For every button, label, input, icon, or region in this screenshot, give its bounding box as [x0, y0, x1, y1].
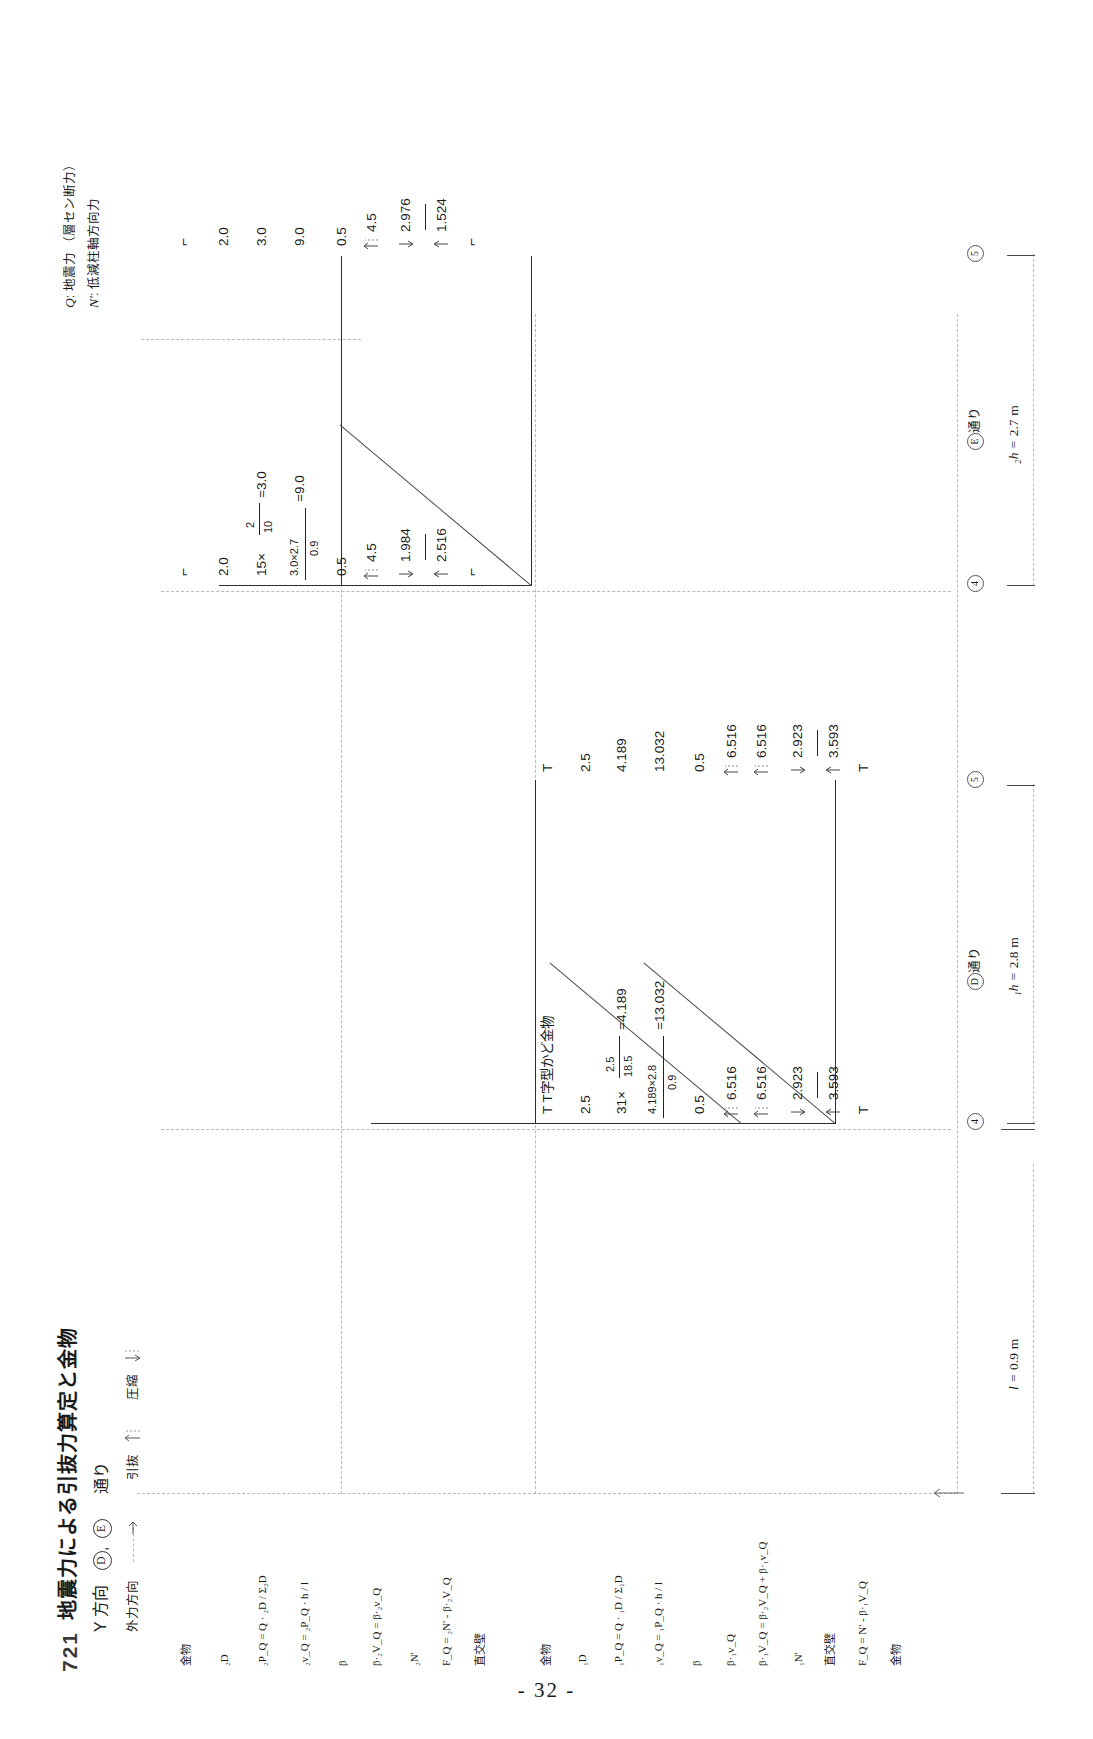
lower-vq-bar — [663, 1036, 664, 1118]
direction-label: Y 方向 — [93, 1585, 109, 1632]
compression-arrow-icon — [123, 1348, 141, 1362]
lower-hw-bottom: T — [857, 1106, 871, 1114]
dim-l-tick-right — [1001, 1129, 1035, 1130]
lower-pq-result: =4.189 — [615, 988, 629, 1030]
upper-r-n-prime: 2.976 — [399, 198, 413, 232]
section-number: 721 — [59, 1631, 80, 1672]
lower-sum-bar — [817, 1072, 818, 1098]
dim-l-label: l = 0.9 m — [1007, 1339, 1021, 1390]
lower-vq-den: 0.9 — [667, 1075, 678, 1090]
upper-r-arrow-2 — [397, 238, 413, 248]
row-label-5: β·₂V_Q = β·₂v_Q — [371, 1588, 382, 1666]
upper-D: 2.0 — [217, 557, 231, 576]
rotated-sheet: 721 地震力による引抜力算定と金物 Y 方向 D, E 通り 外力方向 引抜 … — [41, 50, 1051, 1690]
lower-vq-result: =13.032 — [653, 981, 667, 1030]
lower-beta-v1: 6.516 — [725, 1066, 739, 1100]
upper-r-arrow-1 — [363, 236, 379, 250]
lower-grid-right: 5 — [967, 771, 984, 788]
upper-r-pq: 3.0 — [255, 227, 269, 246]
lower-f-q: 3.593 — [827, 1066, 841, 1100]
lower-r-beta-v2: 6.516 — [755, 724, 769, 758]
upper-arrow-3 — [433, 568, 449, 578]
dim-l-line — [1033, 1164, 1034, 1494]
row-label-0: 金物 — [181, 1644, 192, 1666]
dim-l-tick-left — [1001, 1493, 1035, 1494]
lower-r-beta: 0.5 — [693, 753, 707, 772]
upper-n-prime: 1.984 — [399, 528, 413, 562]
uplift-arrow-icon — [123, 1428, 141, 1442]
lower-r-f-q: 3.593 — [827, 724, 841, 758]
lower-r-hw-bottom: T — [857, 764, 871, 772]
legend-n: N': 低減柱軸方向力 — [87, 198, 101, 308]
upper-pq-result: =3.0 — [255, 471, 269, 498]
lower-D-value: 2.5 — [579, 1095, 593, 1114]
origin-arrow-icon — [931, 1484, 965, 1502]
axis-suffix: 通り — [94, 1462, 110, 1494]
page-number: - 32 - — [0, 1678, 1093, 1703]
row-label-6: ₂N' — [409, 1652, 420, 1666]
lower-hw-note: T T字型かど金物 — [541, 1016, 555, 1114]
row-label-3: ₂v_Q = ₂P_Q · h / l — [299, 1582, 310, 1666]
upper-grid-right: 5 — [967, 245, 984, 262]
axis-label-d: D, — [93, 1547, 112, 1570]
upper-frame-left — [341, 585, 531, 586]
dim-h2-tick-right — [1007, 255, 1035, 256]
legend-n-symbol: N' — [86, 296, 101, 308]
lower-pq-num: 2.5 — [605, 1057, 616, 1072]
lower-r-arrow-1 — [723, 762, 739, 776]
axis-label-e: E — [93, 1519, 112, 1538]
dim-h2-line — [1033, 254, 1034, 586]
lower-span-label: D通り — [967, 947, 984, 990]
circled-e: E — [93, 1519, 112, 1538]
upper-grid-left: 4 — [967, 575, 984, 592]
lower-r-n-prime: 2.923 — [791, 724, 805, 758]
upper-frame-left-up — [219, 585, 341, 586]
dim-h1-line — [1033, 784, 1034, 1124]
load-direction-label: 外力方向 — [127, 1580, 140, 1632]
upper-pq-num: 2 — [245, 522, 256, 528]
upper-frame-top — [341, 256, 342, 586]
upper-r-hw-top: ⌐ — [177, 238, 191, 246]
lower-n-prime: 2.923 — [791, 1066, 805, 1100]
upper-beta: 0.5 — [335, 557, 349, 576]
row-label-17: 直交壁 — [825, 1633, 836, 1666]
document-page: 721 地震力による引抜力算定と金物 Y 方向 D, E 通り 外力方向 引抜 … — [0, 0, 1093, 1739]
page-title: 地震力による引抜力算定と金物 — [58, 1327, 78, 1620]
upper-vq-result: =9.0 — [293, 475, 307, 502]
lower-r-arrow-2 — [753, 762, 769, 776]
lower-frame-left-upper — [371, 1123, 537, 1124]
lower-arrow-2 — [753, 1104, 769, 1118]
upper-hw-bottom: ⌐ — [465, 568, 479, 576]
upper-pq-bar — [259, 503, 260, 535]
lower-arrow-1 — [723, 1104, 739, 1118]
lower-pq-den: 18.5 — [623, 1056, 634, 1077]
dim-h2-label: ₂h = 2.7 m — [1007, 405, 1021, 464]
legend-uplift-label: 引抜 — [127, 1454, 140, 1480]
upper-r-D: 2.0 — [217, 227, 231, 246]
upper-sum-bar — [425, 534, 426, 560]
row-label-12: ₁v_Q = ₁P_Q · h / l — [653, 1582, 664, 1666]
lower-arrow-4 — [825, 1106, 841, 1116]
row-label-9: 金物 — [541, 1644, 552, 1666]
upper-hw-top: ⌐ — [177, 568, 191, 576]
lower-pq-bar — [619, 1036, 620, 1078]
upper-pq-a: 15× — [255, 553, 269, 576]
upper-span-label: E通り — [967, 407, 984, 450]
guide-v-legend — [141, 339, 361, 340]
lower-frame-left — [535, 1123, 835, 1124]
upper-r-f-q: 1.524 — [435, 198, 449, 232]
row-label-4: β — [337, 1660, 348, 1666]
guide-v-right — [161, 591, 951, 592]
upper-f-q: 2.516 — [435, 528, 449, 562]
upper-r-vq: 9.0 — [293, 227, 307, 246]
upper-r-beta-v: 4.5 — [365, 213, 379, 232]
lower-frame-top — [535, 780, 536, 1124]
dim-h1-tick-right — [1007, 785, 1035, 786]
row-label-8: 直交壁 — [475, 1633, 486, 1666]
upper-arrow-2 — [397, 568, 413, 578]
lower-vq-num: 4.189×2.8 — [647, 1065, 658, 1114]
row-label-11: ₁P_Q = Q · ₁D / Σ₁D — [613, 1575, 624, 1666]
row-label-18: F_Q = N' - β·₁V_Q — [857, 1581, 868, 1666]
upper-vq-num: 3.0×2.7 — [289, 539, 300, 576]
lower-brace-2 — [643, 963, 835, 1124]
